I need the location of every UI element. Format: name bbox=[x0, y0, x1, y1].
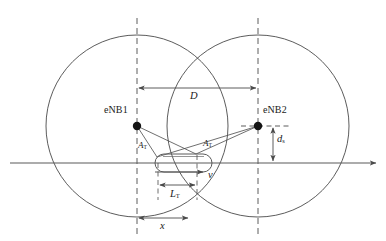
label-velocity: v bbox=[208, 170, 213, 181]
label-angle-rear: AT bbox=[138, 141, 147, 151]
label-enb2: eNB2 bbox=[263, 105, 287, 115]
diagram-canvas bbox=[0, 0, 386, 241]
label-track-offset-sub: s bbox=[282, 137, 285, 144]
label-inter-site-distance: D bbox=[190, 91, 198, 102]
label-track-offset: ds bbox=[277, 134, 285, 145]
base-station-marker-enb2 bbox=[254, 122, 262, 130]
label-train-length-sub: T bbox=[176, 192, 180, 199]
label-train-position: x bbox=[160, 221, 165, 232]
label-train-length: LT bbox=[170, 189, 180, 200]
handover-geometry-diagram: eNB1 eNB2 D ds LT x AT AT v bbox=[0, 0, 386, 241]
label-enb1: eNB1 bbox=[104, 105, 128, 115]
label-angle-rear-sub: T bbox=[144, 144, 147, 150]
label-angle-front-sub: T bbox=[209, 142, 212, 148]
label-angle-front: AT bbox=[203, 139, 212, 149]
base-station-marker-enb1 bbox=[133, 122, 141, 130]
